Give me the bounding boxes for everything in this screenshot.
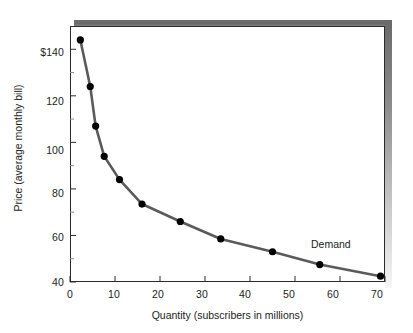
demand-curve-figure: $140 120 100 80 60 40 0 10 20 30 40 50 6…	[0, 0, 413, 333]
y-tick-label-120: 120	[18, 95, 64, 107]
x-tick-label-30: 30	[188, 288, 216, 300]
x-tick-label-70: 70	[363, 288, 391, 300]
y-tick-label-80: 80	[18, 187, 64, 199]
y-tick-label-60: 60	[18, 231, 64, 243]
x-tick-label-50: 50	[275, 288, 303, 300]
y-tick-label-100: 100	[18, 144, 64, 156]
x-tick-label-10: 10	[100, 288, 128, 300]
x-tick-label-40: 40	[231, 288, 259, 300]
y-tick-label-40: 40	[18, 276, 64, 288]
y-tick-label-140: $140	[18, 46, 64, 58]
y-axis-title: Price (average monthly bill)	[12, 68, 24, 228]
x-axis-tick-marks	[70, 276, 385, 282]
demand-curve-annotation: Demand	[311, 238, 351, 250]
x-tick-label-0: 0	[56, 288, 84, 300]
y-axis-tick-marks	[70, 49, 76, 282]
x-tick-label-60: 60	[319, 288, 347, 300]
x-axis-title: Quantity (subscribers in millions)	[70, 309, 385, 321]
x-tick-label-20: 20	[144, 288, 172, 300]
